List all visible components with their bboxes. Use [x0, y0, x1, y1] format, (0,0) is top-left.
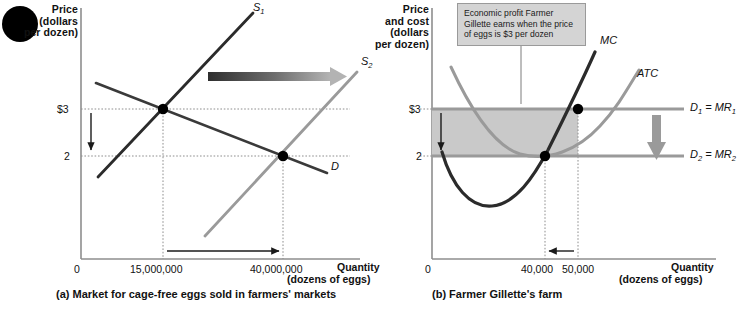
panel-b-y-axis-label-line-4: per dozen): [363, 39, 429, 51]
figure-root: Price (dollars per dozen) $3 2 0 15,000,…: [0, 0, 745, 314]
panel-a-equilibrium-point-2: [278, 151, 288, 161]
panel-b-x-axis-label: Quantity (dozens of eggs): [671, 261, 714, 285]
panel-b-curve-label-d1-text: D: [690, 101, 698, 113]
panel-a-supply-shift-arrow: [208, 67, 347, 86]
panel-a-curve-label-s2-sub: 2: [368, 61, 372, 70]
panel-b-demand-shift-down-arrow: [647, 115, 666, 160]
panel-a-x-axis-label: Quantity (dozens of eggs): [337, 261, 380, 285]
panel-b-y-axis-label-line-3: (dollars: [363, 27, 429, 39]
panel-a-curve-label-s2: S2: [361, 55, 373, 70]
panel-b-curve-label-d2-mr2: D2 = MR2: [690, 148, 736, 163]
panel-a-caption: (a) Market for cage-free eggs sold in fa…: [56, 288, 336, 300]
panel-a-curve-label-d: D: [331, 160, 339, 172]
panel-b-y-axis-label: Price and cost (dollars per dozen): [363, 4, 429, 50]
panel-a-curve-label-s1-sub: 1: [260, 7, 264, 16]
panel-a-curve-label-s1: S1: [253, 1, 265, 16]
panel-a-y-tick-3: $3: [57, 103, 69, 115]
panel-a-y-axis-label-line-3: per dozen): [12, 27, 78, 39]
panel-a-supply-curve-s1: [98, 13, 253, 177]
panel-b-curve-label-mc: MC: [600, 34, 617, 46]
panel-a-y-axis-label: Price (dollars per dozen): [12, 4, 78, 39]
economic-profit-callout: Economic profit Farmer Gillette earns wh…: [457, 3, 586, 46]
panel-a-y-axis-label-line-1: Price: [12, 4, 78, 16]
panel-b-x-axis-label-line-2: (dozens of eggs): [619, 273, 714, 285]
panel-b-y-axis-label-line-1: Price: [363, 4, 429, 16]
panel-b-curve-label-d1-mr1: D1 = MR1: [690, 101, 736, 116]
panel-b-break-even-point: [540, 151, 550, 161]
panel-b-curve-label-mr2-text: = MR: [702, 148, 732, 160]
panel-a-origin-label: 0: [74, 263, 80, 275]
panel-b-curve-label-d2-text: D: [690, 148, 698, 160]
panel-b-curve-label-mr2-sub: 2: [732, 154, 736, 163]
panel-b-y-tick-2: 2: [416, 150, 422, 162]
panel-b-caption: (b) Farmer Gillette's farm: [432, 288, 562, 300]
panel-a-x-axis-label-line-2: (dozens of eggs): [287, 273, 380, 285]
panel-a-x-axis-label-line-1: Quantity: [337, 261, 380, 273]
panel-a-demand-curve: [96, 83, 327, 173]
panel-b-origin-label: 0: [425, 263, 431, 275]
panel-b-x-tick-40k: 40,000: [521, 263, 553, 275]
panel-a-equilibrium-point-1: [158, 104, 168, 114]
panel-b-curve-label-mr1-text: = MR: [702, 101, 732, 113]
panel-a-y-tick-2: 2: [64, 150, 70, 162]
panel-a-x-tick-15m: 15,000,000: [130, 263, 183, 275]
panel-b-y-tick-3: $3: [409, 103, 421, 115]
panel-b-x-axis-label-line-1: Quantity: [671, 261, 714, 273]
panel-a-graph: [81, 8, 360, 259]
panel-b-curve-label-atc: ATC: [637, 67, 658, 79]
panel-b-profit-max-point: [573, 104, 583, 114]
panel-b-x-tick-50k: 50,000: [562, 263, 594, 275]
panel-b-curve-label-mr1-sub: 1: [732, 107, 736, 116]
